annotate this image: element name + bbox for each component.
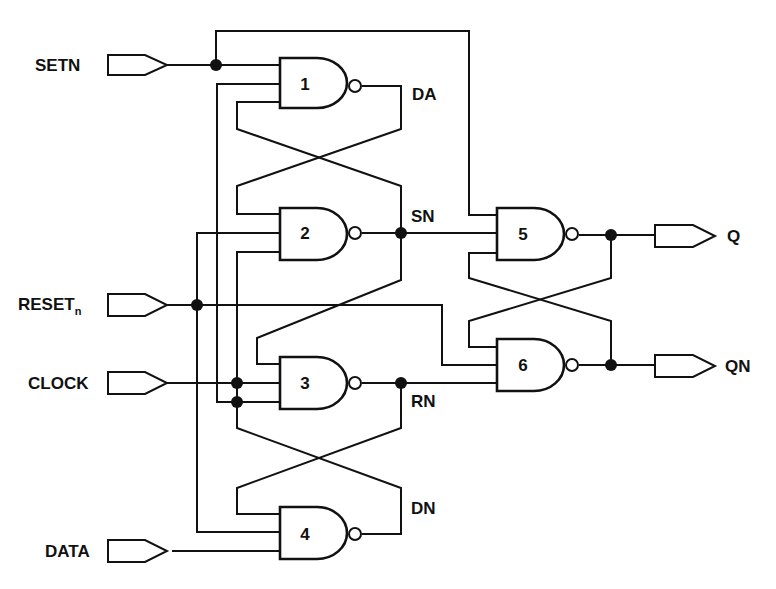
gate-number-2: 2 — [295, 225, 315, 242]
gate-number-3: 3 — [295, 375, 315, 392]
gate-number-5: 5 — [513, 226, 533, 243]
nand-gate-1-icon — [280, 58, 361, 108]
output-label-q: Q — [727, 228, 740, 245]
net-label-dn: DN — [411, 500, 436, 517]
gate-number-1: 1 — [295, 76, 315, 93]
nand-gate-2-icon — [280, 208, 361, 260]
input-label-setn: SETN — [35, 57, 80, 74]
reset-label-text: RESET — [18, 295, 75, 314]
net-label-sn: SN — [411, 208, 435, 225]
gate-number-6: 6 — [513, 357, 533, 374]
nand-gate-5-icon — [497, 208, 578, 260]
schematic-canvas: SETN RESETn CLOCK DATA Q QN DA SN RN DN … — [0, 0, 776, 589]
input-label-clock: CLOCK — [28, 375, 88, 392]
wires — [167, 31, 655, 551]
port-qn-icon — [655, 355, 715, 377]
input-label-data: DATA — [45, 543, 90, 560]
port-data-icon — [108, 540, 167, 562]
nand-gate-6-icon — [497, 339, 578, 391]
port-q-icon — [655, 225, 715, 247]
nand-gate-4-icon — [280, 507, 361, 559]
reset-label-subscript: n — [75, 305, 82, 317]
gate-number-4: 4 — [295, 526, 315, 543]
net-label-rn: RN — [411, 393, 436, 410]
port-setn-icon — [108, 55, 167, 75]
input-label-reset: RESETn — [18, 296, 81, 313]
output-label-qn: QN — [725, 358, 751, 375]
nand-gate-3-icon — [280, 357, 361, 409]
net-label-da: DA — [412, 86, 437, 103]
port-reset-icon — [108, 294, 167, 316]
port-clock-icon — [108, 372, 167, 394]
schematic-svg — [0, 0, 776, 589]
